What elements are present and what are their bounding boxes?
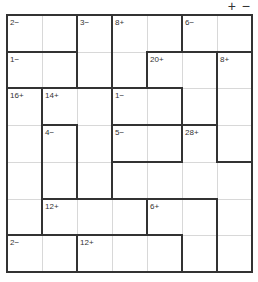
cage-border	[76, 124, 78, 163]
grid-cell[interactable]	[182, 199, 217, 236]
cage-border	[41, 87, 43, 126]
cage-border	[111, 14, 113, 53]
cage-border	[111, 124, 148, 126]
cage-border	[111, 198, 148, 200]
zoom-controls: + −	[228, 0, 250, 14]
cage-border	[146, 234, 183, 236]
cage-clue: 3−	[80, 18, 89, 27]
cage-border	[41, 198, 43, 237]
cage-border	[6, 234, 43, 236]
grid-cell[interactable]	[77, 199, 112, 236]
cage-border	[216, 124, 218, 163]
cage-border	[41, 124, 78, 126]
cage-clue: 8+	[220, 55, 229, 64]
cage-clue: 16+	[10, 91, 24, 100]
cage-border	[146, 198, 183, 200]
cage-clue: 20+	[150, 55, 164, 64]
grid-cell[interactable]	[112, 199, 147, 236]
cage-clue: 12+	[45, 202, 59, 211]
zoom-out-button[interactable]: −	[242, 0, 250, 14]
cage-border	[146, 51, 183, 53]
grid-cell[interactable]	[7, 162, 42, 199]
cage-border	[41, 124, 43, 163]
cage-border	[181, 234, 183, 273]
grid-cell[interactable]	[147, 88, 182, 125]
cage-border	[111, 234, 148, 236]
cage-border	[76, 198, 113, 200]
grid-cell[interactable]	[147, 235, 182, 272]
cage-border	[6, 51, 43, 53]
cage-border	[76, 161, 78, 200]
grid-cell[interactable]	[147, 162, 182, 199]
grid-cell[interactable]	[217, 199, 252, 236]
cage-border	[41, 87, 78, 89]
puzzle-grid: 2−3−8+6−1−20+8+16+14+1−4−5−28+12+6+2−12+	[7, 15, 252, 272]
cage-border	[146, 87, 183, 89]
grid-cell[interactable]	[42, 15, 77, 52]
grid-cell[interactable]	[217, 235, 252, 272]
grid-cell[interactable]	[182, 235, 217, 272]
grid-cell[interactable]	[182, 162, 217, 199]
grid-cell[interactable]	[182, 88, 217, 125]
cage-clue: 6−	[185, 18, 194, 27]
cage-border	[41, 161, 43, 200]
cage-border	[41, 51, 78, 53]
cage-border	[6, 14, 253, 16]
cage-border	[216, 51, 253, 53]
grid-cell[interactable]	[112, 235, 147, 272]
grid-cell[interactable]	[217, 15, 252, 52]
cage-border	[216, 198, 218, 237]
grid-cell[interactable]	[217, 125, 252, 162]
grid-cell[interactable]	[77, 52, 112, 89]
cage-border	[76, 87, 113, 89]
grid-cell[interactable]	[7, 125, 42, 162]
grid-cell[interactable]	[42, 52, 77, 89]
grid-cell[interactable]	[7, 199, 42, 236]
cage-border	[181, 87, 183, 126]
grid-cell[interactable]	[182, 52, 217, 89]
cage-border	[6, 87, 43, 89]
grid-cell[interactable]	[147, 125, 182, 162]
grid-cell[interactable]	[147, 15, 182, 52]
cage-border	[76, 51, 78, 90]
zoom-in-button[interactable]: +	[228, 0, 236, 14]
cage-clue: 14+	[45, 91, 59, 100]
grid-cell[interactable]	[77, 88, 112, 125]
cage-border	[216, 51, 218, 90]
cage-border	[76, 14, 78, 53]
cage-clue: 6+	[150, 202, 159, 211]
grid-cell[interactable]	[77, 125, 112, 162]
cage-border	[111, 51, 113, 90]
cage-border	[216, 87, 218, 126]
cage-border	[41, 198, 78, 200]
grid-cell[interactable]	[42, 162, 77, 199]
cage-clue: 1−	[115, 91, 124, 100]
cage-border	[146, 51, 148, 90]
cage-border	[111, 161, 113, 200]
cage-border	[76, 234, 78, 273]
cage-border	[251, 14, 253, 273]
grid-cell[interactable]	[112, 52, 147, 89]
cage-border	[146, 161, 183, 163]
cage-clue: 4−	[45, 128, 54, 137]
cage-clue: 1−	[10, 55, 19, 64]
cage-border	[76, 234, 113, 236]
cage-border	[111, 161, 148, 163]
cage-clue: 28+	[185, 128, 199, 137]
grid-cell[interactable]	[112, 162, 147, 199]
cage-clue: 2−	[10, 238, 19, 247]
grid-cell[interactable]	[42, 235, 77, 272]
cage-clue: 2−	[10, 18, 19, 27]
grid-cell[interactable]	[217, 88, 252, 125]
cage-border	[181, 124, 218, 126]
cage-border	[111, 124, 113, 163]
grid-cell[interactable]	[217, 162, 252, 199]
cage-border	[146, 198, 148, 237]
cage-clue: 5−	[115, 128, 124, 137]
cage-border	[216, 234, 218, 273]
cage-border	[181, 51, 218, 53]
cage-border	[41, 234, 78, 236]
cage-border	[181, 14, 183, 53]
cage-clue: 12+	[80, 238, 94, 247]
grid-cell[interactable]	[77, 162, 112, 199]
